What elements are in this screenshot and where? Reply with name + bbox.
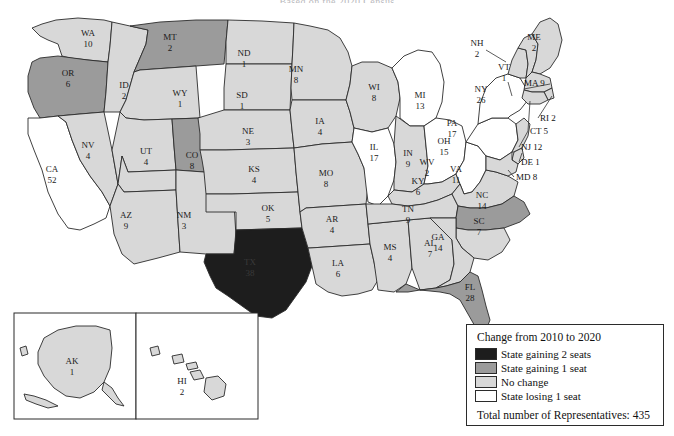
label-ME-seats: 2	[532, 43, 537, 53]
label-MN-seats: 8	[294, 75, 299, 85]
state-MT[interactable]	[130, 20, 228, 72]
label-WI-seats: 8	[372, 93, 377, 103]
legend-swatch-no-change	[475, 376, 497, 389]
legend-swatch-gaining-2	[475, 348, 497, 361]
label-NH-abbr: NH	[471, 38, 484, 48]
legend-swatch-gaining-1	[475, 362, 497, 375]
label-KS-seats: 4	[252, 175, 257, 185]
label-GA-abbr: GA	[432, 232, 445, 242]
state-MN[interactable]	[291, 23, 352, 100]
label-UT-abbr: UT	[140, 146, 152, 156]
label-SD-seats: 1	[240, 101, 245, 111]
label-MO-seats: 8	[324, 179, 329, 189]
label-WA-abbr: WA	[81, 28, 95, 38]
state-SD[interactable]	[224, 64, 292, 110]
state-VT[interactable]	[508, 48, 528, 78]
alaska-small-island	[20, 346, 28, 356]
label-VA-seats: 11	[452, 175, 461, 185]
callout-DE: DE 1	[521, 157, 540, 167]
label-AL-seats: 7	[428, 249, 433, 259]
label-VT-abbr: VT	[498, 62, 510, 72]
state-ND[interactable]	[226, 20, 294, 64]
legend-item-gaining-1: State gaining 1 seat	[475, 361, 655, 375]
label-ME-abbr: ME	[527, 32, 541, 42]
legend-label-gaining-1: State gaining 1 seat	[501, 362, 587, 374]
label-NC-abbr: NC	[476, 190, 489, 200]
label-MI-seats: 13	[416, 101, 426, 111]
label-CO-abbr: CO	[186, 150, 199, 160]
label-WI-abbr: WI	[368, 82, 380, 92]
label-SC-seats: 7	[477, 227, 482, 237]
label-CA-abbr: CA	[46, 164, 59, 174]
label-GA-seats: 14	[434, 243, 444, 253]
label-IL-seats: 17	[370, 153, 380, 163]
label-OK-seats: 5	[266, 214, 271, 224]
label-AK-seats: 1	[70, 367, 75, 377]
label-WV-seats: 2	[425, 168, 430, 178]
label-PA-seats: 17	[448, 129, 458, 139]
label-NM-seats: 3	[182, 221, 187, 231]
callout-MD: MD 8	[516, 172, 538, 182]
label-OK-abbr: OK	[262, 203, 275, 213]
label-KS-abbr: KS	[248, 164, 260, 174]
label-AR-seats: 4	[330, 225, 335, 235]
label-SC-abbr: SC	[473, 216, 484, 226]
label-IL-abbr: IL	[370, 142, 379, 152]
label-ID-seats: 2	[122, 91, 127, 101]
callout-RI: RI 2	[540, 113, 556, 123]
state-MI[interactable]	[392, 50, 444, 126]
label-WV-abbr: WV	[420, 157, 435, 167]
state-CT[interactable]	[522, 90, 548, 104]
label-OR-seats: 6	[66, 79, 71, 89]
label-MI-abbr: MI	[415, 90, 426, 100]
state-AR[interactable]	[300, 204, 370, 248]
label-ND-abbr: ND	[238, 48, 251, 58]
label-HI-seats: 2	[180, 387, 185, 397]
legend-item-losing-1: State losing 1 seat	[475, 389, 655, 403]
map-legend: Change from 2010 to 2020 State gaining 2…	[466, 324, 664, 426]
label-NV-abbr: NV	[82, 140, 95, 150]
label-UT-seats: 4	[144, 157, 149, 167]
label-NE-seats: 3	[246, 137, 251, 147]
label-AR-abbr: AR	[326, 214, 339, 224]
state-AZ[interactable]	[110, 184, 180, 264]
label-CO-seats: 8	[190, 161, 195, 171]
label-IA-seats: 4	[318, 127, 323, 137]
label-WY-seats: 1	[178, 99, 183, 109]
label-TN-seats: 9	[406, 215, 411, 225]
state-LA[interactable]	[308, 244, 378, 296]
legend-swatch-losing-1	[475, 390, 497, 403]
callout-CT: CT 5	[530, 126, 549, 136]
label-NH-seats: 2	[475, 49, 480, 59]
callout-MA: MA 9	[524, 78, 545, 88]
legend-item-no-change: No change	[475, 375, 655, 389]
label-NE-abbr: NE	[242, 126, 254, 136]
legend-title: Change from 2010 to 2020	[477, 331, 655, 343]
label-PA-abbr: PA	[447, 118, 458, 128]
label-TN-abbr: TN	[402, 204, 414, 214]
label-SD-abbr: SD	[236, 90, 248, 100]
label-FL-seats: 28	[466, 293, 476, 303]
label-MN-abbr: MN	[289, 64, 304, 74]
label-LA-abbr: LA	[332, 258, 344, 268]
label-OH-seats: 15	[440, 147, 450, 157]
label-MT-seats: 2	[168, 43, 173, 53]
label-NV-seats: 4	[86, 151, 91, 161]
label-VA-abbr: VA	[450, 164, 462, 174]
label-MT-abbr: MT	[163, 32, 177, 42]
label-NM-abbr: NM	[177, 210, 192, 220]
label-WY-abbr: WY	[173, 88, 188, 98]
state-WA[interactable]	[32, 18, 112, 62]
label-HI-abbr: HI	[177, 376, 187, 386]
label-NY-seats: 26	[477, 95, 487, 105]
label-VT-seats: 1	[502, 73, 507, 83]
label-ND-seats: 1	[242, 59, 247, 69]
label-AZ-seats: 9	[124, 221, 129, 231]
callout-NJ: NJ 12	[521, 142, 542, 152]
label-TX-abbr: TX	[244, 257, 256, 267]
label-NC-seats: 14	[478, 201, 488, 211]
hawaii-oahu	[172, 354, 184, 364]
label-ID-abbr: ID	[119, 80, 129, 90]
label-AZ-abbr: AZ	[120, 210, 132, 220]
label-CA-seats: 52	[48, 175, 57, 185]
